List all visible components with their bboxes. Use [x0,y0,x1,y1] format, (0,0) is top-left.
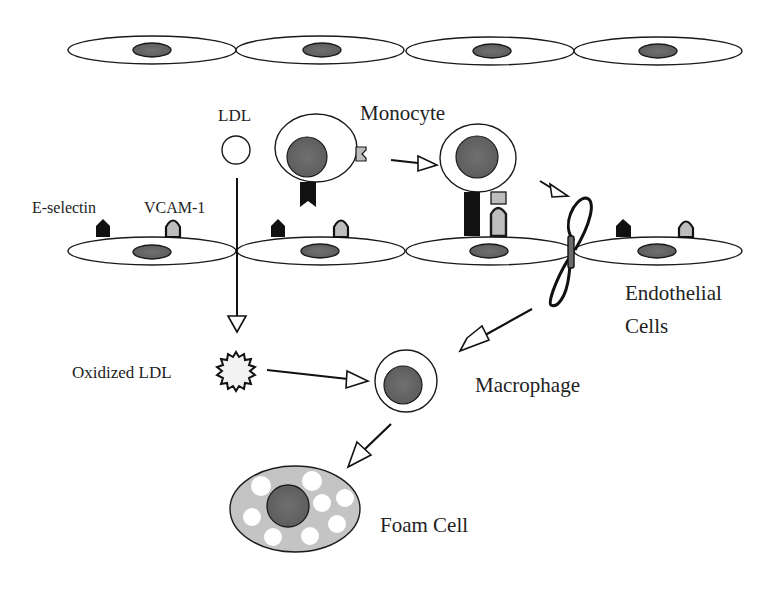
endothelial-cell [574,237,742,265]
endothelial-label-line2: Cells [625,314,668,338]
monocyte-adherent [440,124,516,236]
endothelial-label-line1: Endothelial [625,281,722,305]
vcam1-icon [166,221,180,238]
oxidized-ldl-to-macrophage-arrow [267,370,368,388]
endothelial-cell [406,37,574,65]
monocyte-label: Monocyte [360,101,445,125]
vcam1-icon [334,221,348,238]
ldl-label: LDL [218,106,251,125]
atherosclerosis-diagram: LDL Monocyte [0,0,783,591]
oxidized-ldl-particle-icon [217,352,255,391]
oxidized-ldl-label: Oxidized LDL [72,363,172,382]
monocyte-free [275,114,366,207]
vcam1-icon [679,222,693,238]
e-selectin-icon [96,219,110,237]
e-selectin-icon [616,219,631,237]
ldl-particle-icon [222,136,250,164]
transmigration-to-macrophage-arrow [460,309,532,351]
endothelial-cell [68,237,236,265]
endothelial-cell [68,36,236,64]
vcam-binding-icon [491,208,506,236]
vcam1-label: VCAM-1 [144,199,205,216]
endothelial-cell [406,237,574,265]
foam-cell-label: Foam Cell [380,513,468,537]
bottom-endothelial-row [68,237,742,265]
top-endothelial-row [68,36,742,65]
macrophage-to-foam-cell-arrow [348,424,391,467]
endothelial-cell [237,237,405,265]
e-selectin-binding-icon [464,192,480,236]
integrin-receptor-icon [356,147,366,161]
endothelial-cell [236,36,404,64]
foam-cell [230,466,360,552]
monocyte-arrow-1 [391,156,437,171]
selectin-ligand-icon [300,182,316,207]
e-selectin-label: E-selectin [32,199,96,216]
monocyte-arrow-2 [540,181,568,197]
adhesion-molecules [96,219,693,237]
macrophage-label: Macrophage [475,373,580,397]
e-selectin-icon [271,219,285,237]
endothelial-cell [574,37,742,65]
macrophage [375,350,437,412]
